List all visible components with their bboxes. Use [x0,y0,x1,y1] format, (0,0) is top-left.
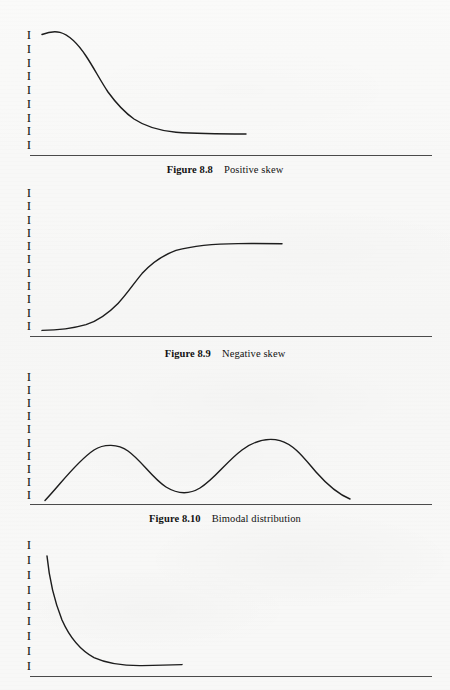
curve-exponential-decay [0,0,450,690]
scanned-page: IIIIIIIII Figure 8.8Positive skew IIIIII… [0,0,450,690]
